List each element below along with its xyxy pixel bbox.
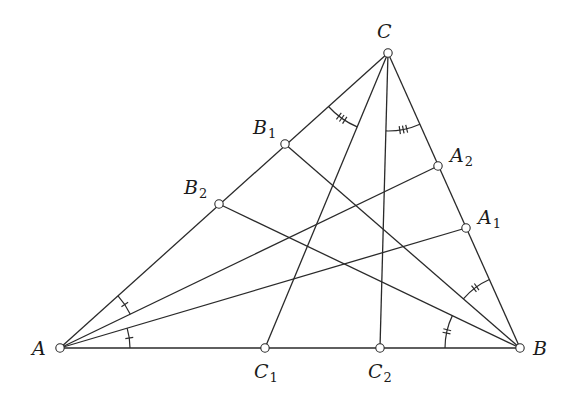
angle-marks-layer — [118, 106, 489, 348]
point-b — [516, 344, 524, 352]
label-a1: A1 — [476, 206, 501, 231]
label-b: B — [532, 337, 547, 359]
angle-mark-c-5 — [386, 124, 420, 134]
point-b2 — [215, 200, 223, 208]
angle-mark-c-4 — [329, 106, 358, 126]
label-b2: B2 — [183, 176, 207, 201]
segment-c-a — [60, 53, 388, 348]
point-a2 — [434, 162, 442, 170]
label-a: A — [30, 337, 46, 359]
angle-mark-a-0 — [125, 328, 133, 348]
point-c — [384, 49, 392, 57]
point-c1 — [261, 344, 269, 352]
segment-c-c2 — [380, 53, 388, 348]
point-c2 — [376, 344, 384, 352]
point-a1 — [462, 224, 470, 232]
segment-a-a1 — [60, 228, 466, 348]
angle-mark-b-2 — [443, 316, 453, 348]
label-c2: C2 — [368, 360, 392, 385]
point-b1 — [281, 140, 289, 148]
point-a — [56, 344, 64, 352]
label-c: C — [377, 20, 392, 42]
label-c1: C1 — [254, 360, 278, 385]
angle-mark-b-3 — [463, 280, 489, 299]
angle-mark-a-1 — [118, 296, 130, 314]
segment-b-c — [388, 53, 520, 348]
segment-b-b2 — [219, 204, 520, 348]
triangle-cevians-diagram: ABCA1A2B1B2C1C2 — [0, 0, 579, 400]
labels-layer: ABCA1A2B1B2C1C2 — [30, 20, 547, 385]
segment-c-c1 — [265, 53, 388, 348]
segments-layer — [60, 53, 520, 348]
label-a2: A2 — [448, 144, 473, 169]
segment-b-b1 — [285, 144, 520, 348]
label-b1: B1 — [252, 116, 276, 141]
